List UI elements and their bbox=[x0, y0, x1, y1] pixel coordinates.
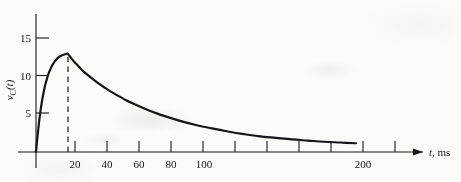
plot-canvas: 20 40 60 80 100 200 5 10 15 vC(t) t, ms bbox=[0, 0, 461, 182]
x-tick-label-40: 40 bbox=[102, 158, 114, 170]
y-tick-label-10: 10 bbox=[20, 70, 32, 82]
y-tick-label-5: 5 bbox=[26, 107, 32, 119]
chart-figure: 20 40 60 80 100 200 5 10 15 vC(t) t, ms bbox=[0, 0, 461, 182]
x-tick-label-20: 20 bbox=[70, 158, 82, 170]
x-tick-label-200: 200 bbox=[355, 158, 372, 170]
svg-text:vC(t): vC(t) bbox=[3, 79, 18, 100]
x-tick-label-100: 100 bbox=[196, 158, 213, 170]
y-axis-caption: vC(t) bbox=[3, 79, 18, 100]
x-tick-label-60: 60 bbox=[134, 158, 146, 170]
x-tick-label-80: 80 bbox=[166, 158, 178, 170]
x-axis-arrowhead bbox=[413, 148, 423, 155]
y-axis-tick-labels: 5 10 15 bbox=[20, 32, 32, 119]
x-axis-caption: t, ms bbox=[429, 146, 450, 158]
x-axis-tick-labels: 20 40 60 80 100 200 bbox=[70, 158, 372, 170]
data-curve-vc bbox=[36, 54, 356, 152]
y-tick-label-15: 15 bbox=[20, 32, 32, 44]
axis-lines bbox=[18, 14, 423, 168]
y-axis-caption-argument: (t) bbox=[3, 79, 16, 90]
x-axis-caption-unit: , ms bbox=[432, 146, 450, 158]
